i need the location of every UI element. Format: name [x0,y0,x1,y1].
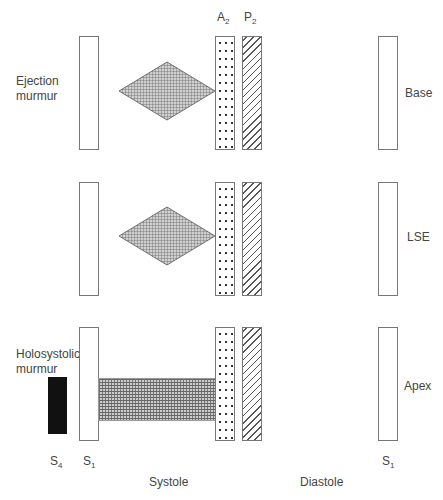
ejection-murmur-label: Ejection murmur [16,74,59,104]
apex-label: Apex [404,379,431,394]
diastole-label: Diastole [300,475,343,490]
p2-sound-apex [242,327,262,441]
s1-sound-apex-next [378,327,398,441]
p2-label: P2 [244,10,256,29]
a2-label: A2 [217,10,229,29]
p2-sound-lse [242,182,262,296]
holosystolic-murmur-label: Holosystolic murmur [16,347,80,377]
holosystolic-murmur-band [98,378,216,421]
s1-sound-lse [79,182,99,296]
a2-sound-base [215,36,235,150]
s4-label: S4 [50,454,62,473]
s1-sound-apex [79,327,99,441]
systole-label: Systole [149,475,188,490]
base-label: Base [405,86,432,101]
s1-sound-base [79,36,99,150]
lse-label: LSE [407,230,430,245]
s1-sound-lse-next [378,182,398,296]
p2-sound-base [242,36,262,150]
s4-sound-apex [48,377,67,434]
ejection-murmur-diamond [119,62,215,120]
a2-sound-lse [215,182,235,296]
ejection-murmur-diamond-lse [119,207,215,265]
s1-label-left: S1 [83,454,95,473]
s1-label-right: S1 [382,454,394,473]
a2-sound-apex [215,327,235,441]
s1-sound-base-next [378,36,398,150]
